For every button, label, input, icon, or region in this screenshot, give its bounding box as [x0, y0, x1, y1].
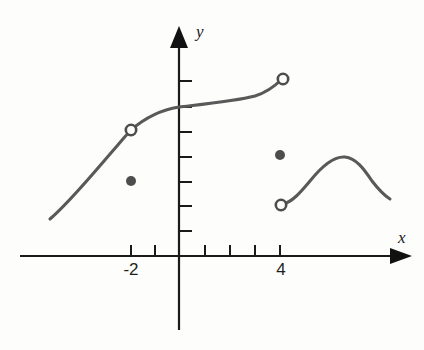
x-axis-arrowhead [390, 248, 412, 264]
open-circle-left-branch-at-x-neg2 [126, 125, 136, 135]
right-branch-curve [283, 157, 390, 204]
filled-dot-at-x-neg2 [126, 176, 136, 186]
y-axis [170, 26, 188, 330]
graph-figure: y x -2 4 [0, 0, 424, 350]
coordinate-plane-plot [0, 0, 424, 350]
x-axis [20, 248, 412, 264]
y-axis-ticks [179, 81, 192, 231]
left-branch-curve [50, 79, 282, 219]
open-circle-right-branch-at-x-4 [276, 200, 286, 210]
y-axis-label: y [196, 22, 204, 42]
graph-markers [126, 74, 288, 210]
x-axis-label: x [398, 228, 406, 248]
x-tick-label-4: 4 [261, 260, 301, 280]
filled-dot-at-x-4 [275, 150, 285, 160]
x-tick-label-neg2: -2 [111, 260, 151, 280]
y-axis-arrowhead [170, 26, 188, 48]
open-circle-left-branch-at-x-4 [278, 74, 288, 84]
